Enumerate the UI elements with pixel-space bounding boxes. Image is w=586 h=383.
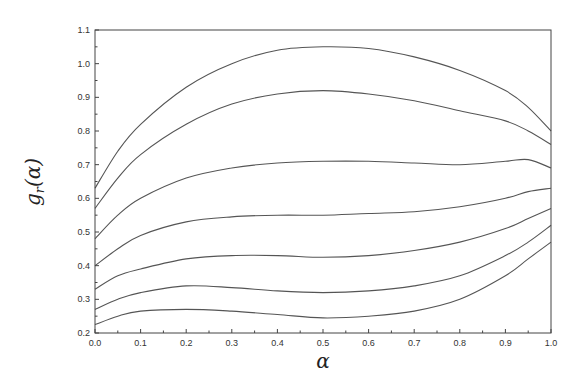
- x-tick-label: 0.9: [499, 338, 512, 348]
- y-tick-label: 1.0: [77, 59, 90, 69]
- y-axis-ticks: 0.20.30.40.50.60.70.80.91.01.1: [77, 25, 99, 338]
- series-line-6: [95, 225, 551, 309]
- y-axis-title: gr(α): [21, 158, 47, 206]
- y-tick-label: 0.7: [77, 160, 90, 170]
- x-tick-label: 0.2: [180, 338, 193, 348]
- x-tick-label: 0.8: [454, 338, 467, 348]
- x-tick-label: 0.1: [134, 338, 147, 348]
- x-tick-label: 1.0: [545, 338, 558, 348]
- series-line-1: [95, 47, 551, 188]
- y-tick-label: 0.4: [77, 261, 90, 271]
- x-tick-label: 0.0: [89, 338, 102, 348]
- x-tick-label: 0.5: [317, 338, 330, 348]
- plot-frame: [95, 30, 551, 333]
- x-tick-label: 0.3: [226, 338, 239, 348]
- series-line-4: [95, 188, 551, 266]
- x-axis-title: α: [316, 349, 330, 373]
- y-tick-label: 0.8: [77, 126, 90, 136]
- y-tick-label: 0.9: [77, 92, 90, 102]
- y-axis-title-main: g: [21, 193, 45, 206]
- x-tick-label: 0.4: [271, 338, 284, 348]
- series-line-7: [95, 242, 551, 325]
- series-line-3: [95, 159, 551, 238]
- y-tick-label: 0.5: [77, 227, 90, 237]
- y-tick-label: 0.6: [77, 193, 90, 203]
- y-tick-label: 1.1: [77, 25, 90, 35]
- series-line-5: [95, 208, 551, 289]
- y-tick-label: 0.2: [77, 328, 90, 338]
- y-tick-label: 0.3: [77, 294, 90, 304]
- x-tick-label: 0.6: [362, 338, 375, 348]
- x-tick-label: 0.7: [408, 338, 421, 348]
- svg-text:gr(α): gr(α): [21, 158, 47, 206]
- series-line-2: [95, 91, 551, 209]
- x-axis-ticks: 0.00.10.20.30.40.50.60.70.80.91.0: [89, 329, 558, 348]
- data-series: [95, 47, 551, 325]
- y-axis-title-rest: (α): [21, 158, 45, 187]
- line-chart: 0.00.10.20.30.40.50.60.70.80.91.0 0.20.3…: [0, 0, 586, 383]
